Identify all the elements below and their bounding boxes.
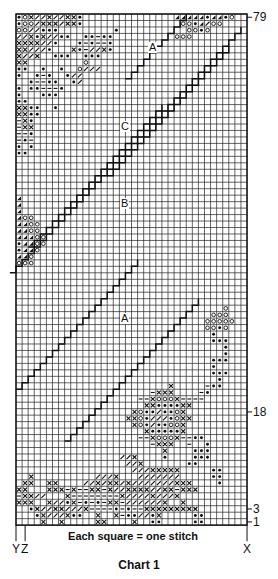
- circle-symbol-icon: [35, 235, 39, 239]
- cross-symbol-icon: [157, 507, 161, 511]
- slash-symbol-icon: [127, 455, 131, 459]
- dot-symbol-icon: [54, 55, 57, 58]
- slash-symbol-icon: [60, 15, 64, 19]
- circle-symbol-icon: [17, 261, 21, 265]
- cross-symbol-icon: [35, 54, 39, 58]
- slash-symbol-icon: [157, 488, 161, 492]
- cross-symbol-icon: [139, 488, 143, 492]
- slash-symbol-icon: [133, 494, 137, 498]
- cross-symbol-icon: [90, 488, 94, 492]
- cross-symbol-icon: [41, 513, 45, 517]
- dot-symbol-icon: [18, 87, 21, 90]
- circle-symbol-icon: [187, 22, 191, 26]
- slash-symbol-icon: [78, 74, 82, 78]
- dot-symbol-icon: [157, 520, 160, 523]
- cross-symbol-icon: [181, 488, 185, 492]
- cross-symbol-icon: [54, 488, 58, 492]
- triangle-symbol-icon: [17, 235, 21, 239]
- dot-symbol-icon: [72, 80, 75, 83]
- cross-symbol-icon: [72, 15, 76, 19]
- slash-symbol-icon: [17, 35, 21, 39]
- cross-symbol-icon: [17, 501, 21, 505]
- dot-symbol-icon: [212, 469, 215, 472]
- slash-symbol-icon: [41, 494, 45, 498]
- cross-symbol-icon: [145, 507, 149, 511]
- dot-symbol-icon: [18, 242, 21, 245]
- dot-symbol-icon: [200, 436, 203, 439]
- circle-symbol-icon: [230, 319, 234, 323]
- cross-symbol-icon: [163, 468, 167, 472]
- cross-symbol-icon: [96, 520, 100, 524]
- section-label-b-2: B: [120, 198, 129, 209]
- slash-symbol-icon: [139, 475, 143, 479]
- dot-symbol-icon: [218, 326, 221, 329]
- slash-symbol-icon: [133, 462, 137, 466]
- legend-caption: Each square = one stitch: [0, 530, 266, 542]
- dot-symbol-icon: [24, 152, 27, 155]
- circle-symbol-icon: [29, 22, 33, 26]
- cross-symbol-icon: [17, 61, 21, 65]
- dot-symbol-icon: [60, 68, 63, 71]
- dot-symbol-icon: [48, 93, 51, 96]
- slash-symbol-icon: [96, 48, 100, 52]
- dot-symbol-icon: [145, 410, 148, 413]
- circle-symbol-icon: [224, 313, 228, 317]
- dot-symbol-icon: [60, 35, 63, 38]
- dot-symbol-icon: [218, 475, 221, 478]
- dot-symbol-icon: [194, 449, 197, 452]
- dot-symbol-icon: [200, 520, 203, 523]
- cross-symbol-icon: [114, 501, 118, 505]
- circle-symbol-icon: [187, 35, 191, 39]
- cross-symbol-icon: [17, 488, 21, 492]
- slash-symbol-icon: [157, 410, 161, 414]
- slash-symbol-icon: [23, 54, 27, 58]
- cross-symbol-icon: [23, 61, 27, 65]
- circle-symbol-icon: [23, 216, 27, 220]
- dot-symbol-icon: [164, 430, 167, 433]
- cross-symbol-icon: [96, 513, 100, 517]
- dot-symbol-icon: [218, 372, 221, 375]
- slash-symbol-icon: [66, 507, 70, 511]
- slash-symbol-icon: [175, 475, 179, 479]
- slash-symbol-icon: [151, 475, 155, 479]
- dot-symbol-icon: [115, 507, 118, 510]
- dot-symbol-icon: [66, 501, 69, 504]
- cross-symbol-icon: [23, 494, 27, 498]
- dot-symbol-icon: [218, 378, 221, 381]
- cross-symbol-icon: [163, 488, 167, 492]
- triangle-symbol-icon: [199, 15, 203, 19]
- cross-symbol-icon: [23, 488, 27, 492]
- slash-symbol-icon: [29, 54, 33, 58]
- dot-symbol-icon: [48, 80, 51, 83]
- row-label-79: 79: [253, 11, 266, 23]
- dot-symbol-icon: [24, 100, 27, 103]
- cross-symbol-icon: [23, 119, 27, 123]
- cross-symbol-icon: [72, 22, 76, 26]
- cross-symbol-icon: [157, 442, 161, 446]
- cross-symbol-icon: [66, 15, 70, 19]
- cross-symbol-icon: [175, 481, 179, 485]
- slash-symbol-icon: [96, 475, 100, 479]
- circle-symbol-icon: [29, 261, 33, 265]
- dot-symbol-icon: [224, 372, 227, 375]
- dot-symbol-icon: [170, 430, 173, 433]
- row-label-18: 18: [253, 406, 266, 418]
- section-label-a-0: A: [148, 42, 157, 53]
- slash-symbol-icon: [139, 494, 143, 498]
- dot-symbol-icon: [36, 87, 39, 90]
- circle-symbol-icon: [42, 242, 46, 246]
- slash-symbol-icon: [133, 501, 137, 505]
- slash-symbol-icon: [72, 74, 76, 78]
- cross-symbol-icon: [17, 112, 21, 116]
- triangle-symbol-icon: [17, 203, 21, 207]
- cross-symbol-icon: [41, 35, 45, 39]
- cross-symbol-icon: [187, 481, 191, 485]
- cross-symbol-icon: [193, 488, 197, 492]
- dot-symbol-icon: [206, 391, 209, 394]
- dot-symbol-icon: [157, 404, 160, 407]
- circle-symbol-icon: [212, 319, 216, 323]
- circle-symbol-icon: [224, 326, 228, 330]
- slash-symbol-icon: [145, 481, 149, 485]
- slash-symbol-icon: [206, 22, 210, 26]
- dot-symbol-icon: [200, 449, 203, 452]
